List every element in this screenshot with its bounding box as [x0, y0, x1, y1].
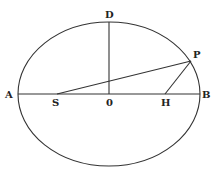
label-S: S	[52, 97, 59, 108]
label-A: A	[4, 89, 13, 100]
ellipse-diagram: A B D 0 S H P	[0, 0, 221, 174]
label-O: 0	[106, 97, 113, 108]
label-P: P	[193, 49, 201, 60]
focal-radius-SP	[57, 61, 191, 94]
label-B: B	[202, 89, 210, 100]
label-D: D	[105, 9, 114, 20]
label-H: H	[161, 97, 170, 108]
